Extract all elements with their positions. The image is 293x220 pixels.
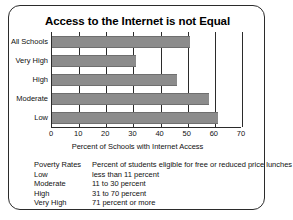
x-tick-label: 50 <box>183 129 191 138</box>
x-tick-label: 0 <box>49 129 53 138</box>
category-label: All Schools <box>11 36 48 48</box>
category-label: High <box>33 74 48 86</box>
category-label: Moderate <box>16 93 48 105</box>
category-label: Low <box>34 112 48 124</box>
x-tick-label: 10 <box>74 129 82 138</box>
chart-title: Access to the Internet is not Equal <box>9 15 266 27</box>
plot-wrapper: All SchoolsVery HighHighModerateLow 0102… <box>51 32 252 128</box>
plot-area: All SchoolsVery HighHighModerateLow <box>51 32 241 128</box>
x-tick-label: 40 <box>155 129 163 138</box>
footnote-definition: less than 11 percent <box>92 170 249 180</box>
bar-row: All Schools <box>52 36 242 48</box>
footnote-row: Poverty RatesPercent of students eligibl… <box>34 160 249 170</box>
footnote-term: Moderate <box>34 179 92 189</box>
footnote-definition: Percent of students eligible for free or… <box>92 160 273 170</box>
x-tick-label: 70 <box>237 129 245 138</box>
footnote-definition: 71 percent or more <box>92 198 249 208</box>
bar-row: Low <box>52 112 242 124</box>
bar-row: High <box>52 74 242 86</box>
bar <box>52 74 177 86</box>
bar <box>52 55 136 67</box>
footnote-row: Moderate11 to 30 percent <box>34 179 249 189</box>
footnote-definition: 31 to 70 percent <box>92 189 249 199</box>
footnote-row: High31 to 70 percent <box>34 189 249 199</box>
x-tick-label: 60 <box>210 129 218 138</box>
footnote-row: Lowless than 11 percent <box>34 170 249 180</box>
gridline <box>242 32 243 127</box>
x-tick-label: 20 <box>101 129 109 138</box>
footnote-definition: 11 to 30 percent <box>92 179 249 189</box>
bar <box>52 93 209 105</box>
footnote-term: Very High <box>34 198 92 208</box>
x-axis-label: Percent of Schools with Internet Access <box>9 142 266 151</box>
bar-row: Very High <box>52 55 242 67</box>
footnote-table: Poverty RatesPercent of students eligibl… <box>34 160 249 208</box>
footnote-row: Very High71 percent or more <box>34 198 249 208</box>
footnote-term: High <box>34 189 92 199</box>
bar-row: Moderate <box>52 93 242 105</box>
chart-figure: Access to the Internet is not Equal All … <box>8 5 265 210</box>
footnote-term: Poverty Rates <box>34 160 92 170</box>
category-label: Very High <box>15 55 48 67</box>
bar <box>52 112 218 124</box>
x-tick-label: 30 <box>128 129 136 138</box>
footnote-term: Low <box>34 170 92 180</box>
bar <box>52 36 190 48</box>
